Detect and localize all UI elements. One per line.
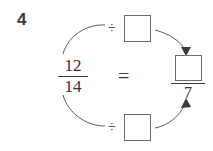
arc-top-left bbox=[63, 25, 105, 54]
left-fraction-denominator: 14 bbox=[55, 78, 91, 96]
answer-box-bottom-divisor[interactable] bbox=[124, 114, 151, 141]
divide-operator-bottom: ÷ bbox=[108, 121, 116, 135]
arc-bottom-right bbox=[155, 104, 185, 128]
answer-box-numerator[interactable] bbox=[175, 55, 202, 81]
equals-sign: = bbox=[118, 66, 129, 86]
left-fraction: 12 14 bbox=[55, 57, 91, 96]
worksheet-problem: 4 12 14 = ÷ ÷ 7 bbox=[0, 0, 213, 151]
answer-box-top-divisor[interactable] bbox=[124, 15, 151, 42]
arc-top-right bbox=[155, 30, 185, 50]
answer-fraction-denominator: 7 bbox=[170, 84, 206, 102]
left-fraction-numerator: 12 bbox=[55, 57, 91, 75]
divide-operator-top: ÷ bbox=[108, 22, 116, 36]
problem-number: 4 bbox=[17, 11, 26, 28]
arc-bottom-left bbox=[63, 95, 105, 126]
answer-fraction: 7 bbox=[170, 55, 206, 102]
